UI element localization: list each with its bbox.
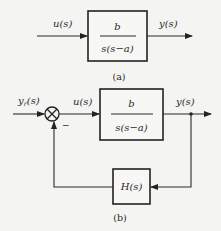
feedback-block-label: H(s) bbox=[120, 181, 143, 192]
reference-label: yr(s) bbox=[17, 95, 40, 108]
block-diagram-canvas: u(s) b s(s−a) y(s) (a) yr(s) − u(s) b s(… bbox=[0, 0, 221, 231]
forward-denominator: s(s−a) bbox=[115, 122, 148, 133]
output-label-b: y(s) bbox=[175, 96, 195, 107]
output-label: y(s) bbox=[158, 18, 178, 29]
feedback-minus-sign: − bbox=[62, 120, 70, 130]
summing-junction-icon bbox=[45, 107, 59, 121]
caption-a: (a) bbox=[112, 71, 125, 82]
diagram-b: yr(s) − u(s) b s(s−a) y(s) H(s) (b) bbox=[13, 89, 211, 223]
caption-b: (b) bbox=[113, 212, 127, 223]
control-label: u(s) bbox=[73, 96, 92, 107]
plant-denominator: s(s−a) bbox=[101, 43, 134, 54]
forward-numerator: b bbox=[128, 98, 134, 109]
diagram-a: u(s) b s(s−a) y(s) (a) bbox=[37, 11, 192, 82]
plant-numerator: b bbox=[114, 21, 120, 32]
input-label: u(s) bbox=[53, 18, 72, 29]
